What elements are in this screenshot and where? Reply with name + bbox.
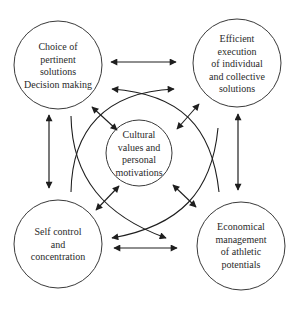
label-line: Efficient bbox=[209, 33, 265, 46]
label-line: Self control bbox=[31, 226, 85, 239]
label-line: management bbox=[215, 234, 266, 247]
interaction-diagram: Choice of pertinent solutions Decision m… bbox=[0, 0, 291, 311]
label-line: values and bbox=[115, 142, 162, 155]
label-line: and collective bbox=[209, 70, 265, 83]
node-label-choice-of-solutions: Choice of pertinent solutions Decision m… bbox=[24, 41, 92, 91]
label-line: Decision making bbox=[24, 79, 92, 92]
arrow-selfcontrol-to-cultural bbox=[96, 186, 119, 210]
label-line: of individual bbox=[209, 58, 265, 71]
node-label-economical-management: Economical management of athletic potent… bbox=[215, 221, 266, 271]
label-line: solutions bbox=[209, 83, 265, 96]
label-line: personal bbox=[115, 154, 162, 167]
label-line: Cultural bbox=[115, 129, 162, 142]
label-line: Choice of bbox=[24, 41, 92, 54]
label-line: concentration bbox=[31, 251, 85, 264]
label-line: Economical bbox=[215, 221, 266, 234]
label-line: and bbox=[31, 239, 85, 252]
arrow-choice-to-cultural bbox=[92, 107, 117, 130]
node-label-self-control: Self control and concentration bbox=[31, 226, 85, 264]
label-line: pertinent bbox=[24, 54, 92, 67]
node-label-cultural-values: Cultural values and personal motivations bbox=[115, 129, 162, 179]
label-line: potentials bbox=[215, 259, 266, 272]
label-line: of athletic bbox=[215, 246, 266, 259]
label-line: execution bbox=[209, 45, 265, 58]
node-label-efficient-execution: Efficient execution of individual and co… bbox=[209, 33, 265, 96]
label-line: solutions bbox=[24, 66, 92, 79]
arrow-economical-to-cultural bbox=[173, 185, 196, 207]
label-line: motivations bbox=[115, 167, 162, 180]
